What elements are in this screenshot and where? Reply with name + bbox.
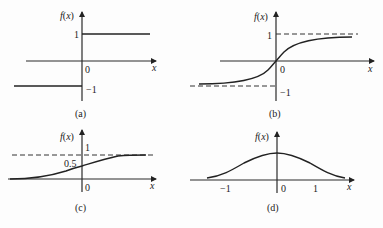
gaussian-curve	[207, 153, 345, 178]
tick-minus-1: −1	[86, 84, 97, 95]
caption-c: (c)	[75, 202, 86, 214]
panel-b: f(x) 1 0 −1 x (b)	[190, 11, 374, 120]
caption-b: (b)	[269, 108, 281, 120]
y-axis-label: f(x)	[255, 131, 269, 143]
tick-1: 1	[74, 29, 79, 40]
tick-1: 1	[85, 142, 90, 153]
panel-c: f(x) 1 0.5 0 x (c)	[8, 130, 156, 214]
y-axis-label: f(x)	[254, 11, 268, 23]
caption-d: (d)	[267, 202, 279, 214]
panel-d: f(x) −1 0 1 x (d)	[190, 131, 354, 214]
panel-a: f(x) 1 0 −1 x (a)	[14, 10, 157, 120]
x-axis-label: x	[149, 180, 155, 191]
x-axis-label: x	[346, 181, 352, 192]
tick-minus-1: −1	[220, 183, 231, 194]
x-axis-label: x	[367, 63, 373, 74]
activation-functions-figure: f(x) 1 0 −1 x (a) f(x) 1 0 −1 x (b) f(x)…	[0, 0, 383, 228]
caption-a: (a)	[75, 108, 86, 120]
x-axis-label: x	[151, 62, 157, 73]
tick-1: 1	[313, 183, 318, 194]
tick-1: 1	[267, 30, 272, 41]
tick-0: 0	[281, 183, 286, 194]
logistic-curve	[10, 155, 146, 179]
y-axis-label: f(x)	[60, 131, 74, 143]
y-axis-label: f(x)	[60, 10, 74, 22]
tick-minus-1: −1	[280, 87, 291, 98]
tick-0: 0	[280, 64, 285, 75]
tick-0: 0	[85, 182, 90, 193]
tick-0-5: 0.5	[64, 158, 77, 169]
tick-0: 0	[85, 64, 90, 75]
